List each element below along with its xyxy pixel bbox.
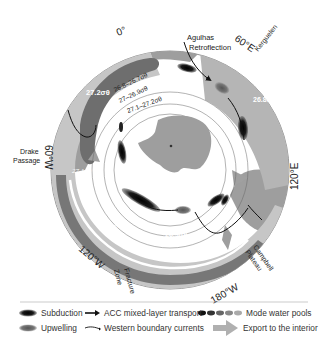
density-268: 26.8σθ bbox=[253, 96, 275, 103]
label-60w: 60°W bbox=[43, 145, 54, 170]
legend-acc-arrow-icon bbox=[85, 310, 100, 316]
label-0deg: 0° bbox=[115, 24, 128, 38]
label-60e: 60°E bbox=[233, 33, 257, 55]
label-drake: Drake bbox=[20, 148, 39, 155]
label-120e: 120°E bbox=[289, 162, 300, 190]
legend-export-arrow-icon bbox=[213, 320, 238, 336]
legend-western-boundary-icon bbox=[85, 327, 101, 331]
label-agulhas: Agulhas bbox=[187, 33, 214, 42]
southern-ocean-diagram: 0° 60°E 120°E 180°W 120°W 60°W Agulhas R… bbox=[0, 0, 326, 342]
label-passage: Passage bbox=[13, 157, 40, 165]
label-kerguelen: Kerguelen bbox=[253, 23, 279, 53]
south-pole-marker bbox=[170, 145, 173, 148]
density-271: 27.1σθ bbox=[72, 167, 92, 175]
density-27: 27σθ bbox=[104, 222, 118, 230]
legend-mode-water-icon bbox=[198, 311, 242, 316]
legend-subduction-icon bbox=[19, 310, 37, 317]
label-retroflection: Retroflection bbox=[189, 43, 231, 52]
density-269: 26.9σθ bbox=[165, 231, 187, 238]
density-272: 27.2σθ bbox=[86, 88, 110, 97]
legend-upwelling-icon bbox=[19, 325, 37, 332]
